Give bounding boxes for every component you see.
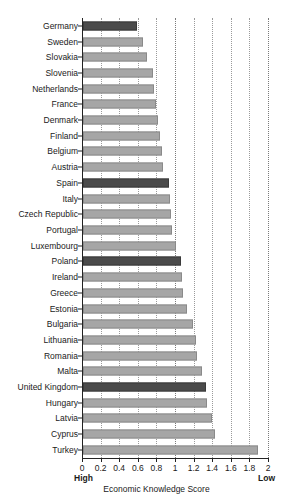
bar-row: Poland [0, 254, 287, 270]
bar-row: Estonia [0, 301, 287, 317]
bar-row: Portugal [0, 222, 287, 238]
y-axis-tick [78, 387, 82, 388]
bar-row: Finland [0, 128, 287, 144]
x-axis-tick-label: 2 [266, 463, 271, 473]
x-axis-tick [249, 458, 250, 462]
bar [83, 257, 181, 266]
bar [83, 37, 143, 46]
x-axis-tick [101, 458, 102, 462]
x-axis-tick-label: 0 [80, 463, 85, 473]
bar [83, 100, 156, 109]
y-axis-tick [78, 198, 82, 199]
y-axis-tick [78, 324, 82, 325]
category-label: Ireland [52, 272, 78, 282]
bar [83, 288, 183, 297]
category-label: France [52, 99, 78, 109]
bar-row: Spain [0, 175, 287, 191]
bar [83, 131, 160, 140]
category-label: Turkey [52, 445, 78, 455]
bar-row: Greece [0, 285, 287, 301]
x-axis-tick-label: 1.6 [225, 463, 237, 473]
bar-row: Sweden [0, 34, 287, 50]
category-label: Poland [52, 256, 78, 266]
category-label: Greece [50, 288, 78, 298]
bar [83, 163, 163, 172]
category-label: Lithuania [43, 335, 78, 345]
bar [83, 53, 147, 62]
x-axis-tick-label: 0.2 [95, 463, 107, 473]
category-label: Germany [43, 21, 78, 31]
bar-row: Latvia [0, 411, 287, 427]
y-axis-tick [78, 135, 82, 136]
bar-row: Slovenia [0, 65, 287, 81]
x-axis-tick [156, 458, 157, 462]
category-label: Latvia [55, 413, 78, 423]
y-axis-tick [78, 151, 82, 152]
bar-row: Austria [0, 159, 287, 175]
bar-row: Germany [0, 18, 287, 34]
category-label: Estonia [50, 304, 78, 314]
y-axis-tick [78, 88, 82, 89]
y-axis-tick [78, 245, 82, 246]
x-axis-tick [175, 458, 176, 462]
y-axis-tick [78, 57, 82, 58]
bar [83, 304, 187, 313]
bar-row: United Kingdom [0, 379, 287, 395]
x-axis-tick-label: 0.8 [150, 463, 162, 473]
bar-row: Ireland [0, 269, 287, 285]
axis-endcap-high: High [74, 473, 93, 483]
bar [83, 430, 215, 439]
category-label: United Kingdom [18, 382, 78, 392]
bar [83, 383, 206, 392]
bar-row: Malta [0, 363, 287, 379]
bar-row: Luxembourg [0, 238, 287, 254]
y-axis-tick [78, 371, 82, 372]
y-axis-tick [78, 182, 82, 183]
category-label: Netherlands [32, 84, 78, 94]
bar-row: Italy [0, 191, 287, 207]
bar-row: Hungary [0, 395, 287, 411]
y-axis-tick [78, 104, 82, 105]
category-label: Romania [44, 351, 78, 361]
bar [83, 398, 207, 407]
x-axis-tick [138, 458, 139, 462]
y-axis-tick [78, 261, 82, 262]
bar [83, 335, 196, 344]
bar-row: Denmark [0, 112, 287, 128]
y-axis-tick [78, 418, 82, 419]
bar-row: Czech Republic [0, 206, 287, 222]
category-label: Slovenia [45, 68, 78, 78]
x-axis-title: Economic Knowledge Score [0, 484, 287, 494]
bar-row: Romania [0, 348, 287, 364]
category-label: Portugal [46, 225, 78, 235]
category-label: Denmark [44, 115, 78, 125]
x-axis-tick [212, 458, 213, 462]
bar [83, 414, 212, 423]
x-axis-tick [231, 458, 232, 462]
category-label: Hungary [46, 398, 78, 408]
y-axis-tick [78, 214, 82, 215]
y-axis-tick [78, 449, 82, 450]
bar [83, 210, 171, 219]
bar-row: Cyprus [0, 426, 287, 442]
bar [83, 241, 176, 250]
x-axis-tick-label: 1.4 [206, 463, 218, 473]
bar-rows: GermanySwedenSlovakiaSloveniaNetherlands… [0, 18, 287, 458]
bar-row: Bulgaria [0, 316, 287, 332]
x-axis-tick [268, 458, 269, 462]
bar [83, 68, 153, 77]
y-axis-tick [78, 25, 82, 26]
y-axis-tick [78, 277, 82, 278]
bar [83, 320, 193, 329]
y-axis-tick [78, 167, 82, 168]
category-label: Czech Republic [18, 209, 78, 219]
y-axis-tick [78, 41, 82, 42]
economic-knowledge-score-chart: GermanySwedenSlovakiaSloveniaNetherlands… [0, 0, 287, 501]
bar-row: Netherlands [0, 81, 287, 97]
category-label: Cyprus [51, 429, 78, 439]
y-axis-tick [78, 339, 82, 340]
y-axis-tick [78, 72, 82, 73]
category-label: Austria [52, 162, 78, 172]
bar [83, 351, 197, 360]
x-axis-tick [82, 458, 83, 462]
